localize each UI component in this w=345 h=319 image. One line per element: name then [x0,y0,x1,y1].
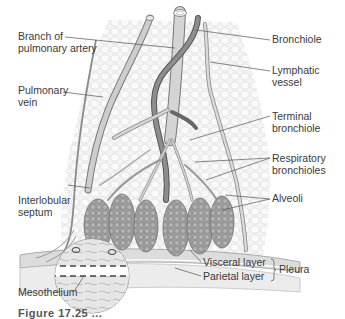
label-line: vein [18,97,68,109]
label-line: Pulmonary [18,85,68,97]
label-line: Respiratory [272,153,326,165]
label-line: pulmonary artery [18,43,97,55]
figure-caption-clipped: Figure 17.25 ... [18,307,102,319]
label-line: Terminal [272,111,320,123]
label-mesothelium: Mesothelium [18,287,78,299]
label-line: Lymphatic [272,65,319,77]
label-alveoli: Alveoli [272,193,303,205]
label-line: vessel [272,77,319,89]
label-respiratory-bronchioles: Respiratory bronchioles [272,153,326,176]
label-branch-of-pulmonary-artery: Branch of pulmonary artery [18,31,97,54]
label-pulmonary-vein: Pulmonary vein [18,85,68,108]
label-interlobular-septum: Interlobular septum [18,195,71,218]
label-line: bronchioles [272,165,326,177]
label-line: Branch of [18,31,97,43]
label-lymphatic-vessel: Lymphatic vessel [272,65,319,88]
label-parietal-layer: Parietal layer [203,271,264,283]
label-line: septum [18,207,71,219]
label-visceral-layer: Visceral layer [203,257,266,269]
label-bronchiole: Bronchiole [272,34,322,46]
label-line: bronchiole [272,123,320,135]
label-pleura: Pleura [279,264,309,276]
label-line: Interlobular [18,195,71,207]
label-terminal-bronchiole: Terminal bronchiole [272,111,320,134]
